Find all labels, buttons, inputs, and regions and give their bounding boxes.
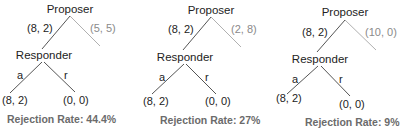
responder-node-label: Responder: [157, 51, 213, 63]
rejection-rate-label: Rejection Rate: 27%: [160, 114, 261, 126]
game-tree-panel-3: Proposer (8, 2) (10, 0) Responder a r (8…: [276, 6, 400, 128]
accept-action-label: a: [292, 73, 299, 85]
accept-edge: [10, 62, 42, 93]
accept-action-label: a: [159, 71, 166, 83]
reject-action-label: r: [205, 71, 209, 83]
proposer-node-label: Proposer: [47, 3, 94, 15]
game-trees: Proposer (8, 2) (5, 5) Responder a r (8,…: [0, 0, 401, 134]
responder-node-label: Responder: [16, 49, 72, 61]
accept-edge: [152, 64, 184, 94]
reject-action-label: r: [339, 73, 343, 85]
reject-payoff: (0, 0): [339, 98, 365, 110]
game-tree-panel-2: Proposer (8, 2) (2, 8) Responder a r (8,…: [143, 4, 261, 126]
reject-payoff: (0, 0): [63, 94, 89, 106]
offer-label: (8, 2): [302, 26, 328, 38]
alt-offer-label: (10, 0): [365, 26, 397, 38]
reject-payoff: (0, 0): [205, 95, 231, 107]
alt-offer-label: (5, 5): [90, 22, 116, 34]
reject-edge: [321, 66, 350, 96]
rejection-rate-label: Rejection Rate: 44.4%: [7, 113, 117, 125]
accept-payoff: (8, 2): [2, 94, 28, 106]
proposer-node-label: Proposer: [188, 4, 235, 16]
rejection-rate-label: Rejection Rate: 9%: [305, 116, 400, 128]
reject-action-label: r: [64, 69, 68, 81]
accept-payoff: (8, 2): [276, 92, 302, 104]
accept-action-label: a: [17, 69, 24, 81]
game-tree-panel-1: Proposer (8, 2) (5, 5) Responder a r (8,…: [2, 3, 117, 125]
offer-label: (8, 2): [27, 22, 53, 34]
reject-edge: [186, 64, 216, 94]
game-tree-figure: Proposer (8, 2) (5, 5) Responder a r (8,…: [0, 0, 401, 134]
reject-edge: [44, 62, 75, 92]
accept-payoff: (8, 2): [143, 95, 169, 107]
responder-node-label: Responder: [292, 53, 348, 65]
proposer-node-label: Proposer: [322, 6, 369, 18]
offer-label: (8, 2): [168, 23, 194, 35]
alt-offer-label: (2, 8): [231, 23, 257, 35]
